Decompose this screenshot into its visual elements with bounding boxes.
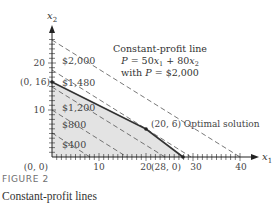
profit-annotation: Constant-profit line P = 50x1 + 80x2 wit… bbox=[113, 43, 207, 78]
x-tick-40: 40 bbox=[235, 162, 247, 172]
figure-label: FIGURE 2 bbox=[2, 174, 49, 184]
profit-label-2000: $2,000 bbox=[62, 55, 95, 66]
x-tick-10: 10 bbox=[93, 162, 105, 172]
point-0-16-marker bbox=[50, 80, 54, 84]
profit-label-800: $800 bbox=[62, 119, 86, 130]
profit-label-400: $400 bbox=[62, 139, 86, 150]
point-0-16-label: (0, 16) bbox=[20, 77, 50, 87]
x-axis-label: x1 bbox=[262, 151, 272, 165]
point-28-0-marker bbox=[181, 155, 185, 159]
profit-label-1200: $1,200 bbox=[62, 102, 95, 113]
y-axis-label: x2 bbox=[47, 10, 57, 24]
point-20-6-marker bbox=[144, 127, 148, 131]
optimal-solution-label: (20, 6) Optimal solution bbox=[151, 119, 260, 129]
y-tick-10: 10 bbox=[34, 105, 46, 115]
x-tick-30: 30 bbox=[190, 162, 202, 172]
profit-label-1480: $1,480 bbox=[62, 77, 95, 88]
y-tick-20: 20 bbox=[34, 58, 46, 68]
y-axis-arrow-icon bbox=[49, 25, 55, 33]
figure-caption: Constant-profit lines bbox=[2, 190, 97, 202]
origin-label: (0, 0) bbox=[24, 162, 48, 172]
annotation-line-3: with P = $2,000 bbox=[121, 67, 199, 78]
point-28-0-label: (28, 0) bbox=[151, 162, 181, 172]
x-axis-arrow-icon bbox=[251, 154, 259, 160]
annotation-line-1: Constant-profit line bbox=[113, 43, 207, 54]
